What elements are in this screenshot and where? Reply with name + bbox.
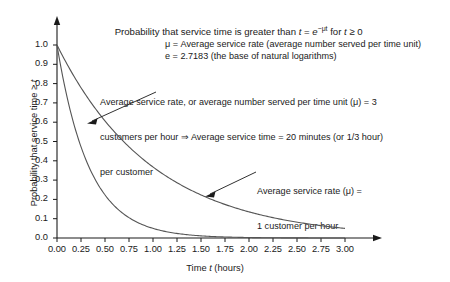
curves: [57, 45, 345, 238]
leader-arrow-mu-1: [205, 192, 216, 198]
chart-figure: Probability that service time is greater…: [0, 0, 450, 282]
leader-line-mu-1: [210, 172, 256, 194]
leader-arrow-mu-3: [87, 119, 98, 125]
annotation-leaders: [87, 92, 256, 198]
curve-series-0: [57, 45, 345, 238]
x-axis-arrow: [373, 235, 382, 241]
leader-line-mu-3: [92, 92, 156, 121]
curve-series-1: [57, 45, 345, 228]
y-axis-arrow: [54, 16, 60, 25]
axes: [53, 16, 382, 242]
plot-area: [0, 0, 450, 282]
